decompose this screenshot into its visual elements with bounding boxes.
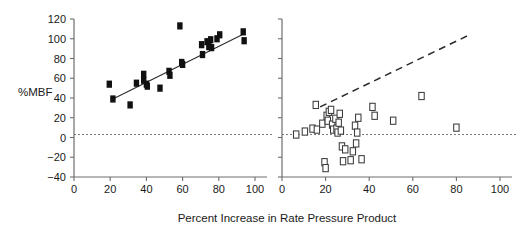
x-tick-label-right-60: 60 xyxy=(407,183,419,195)
data-point-right-11 xyxy=(328,106,333,113)
data-point-left-7 xyxy=(145,83,150,90)
data-point-right-24 xyxy=(350,148,355,155)
y-tick-label-left-40: 40 xyxy=(54,92,66,104)
data-point-left-2 xyxy=(127,101,132,108)
trend-line-left xyxy=(113,34,244,99)
y-tick-label-left-20: 20 xyxy=(54,112,66,124)
x-tick-label-right-100: 100 xyxy=(491,183,509,195)
data-point-right-27 xyxy=(355,129,360,136)
x-tick-label-right-20: 20 xyxy=(319,183,331,195)
data-point-left-3 xyxy=(134,80,139,87)
x-tick-label-left-0: 0 xyxy=(71,183,77,195)
data-point-right-34 xyxy=(454,124,459,131)
data-point-left-19 xyxy=(209,44,214,51)
x-tick-label-left-80: 80 xyxy=(213,183,225,195)
data-point-left-0 xyxy=(107,81,112,88)
y-tick-label-left--20: −20 xyxy=(47,151,66,163)
data-point-left-10 xyxy=(167,72,172,79)
data-point-left-22 xyxy=(241,28,246,35)
data-point-left-23 xyxy=(241,37,246,44)
data-point-right-18 xyxy=(337,110,342,117)
scatter-plot-figure: 020406080100−40−200204060801001200204060… xyxy=(0,0,527,230)
data-point-right-29 xyxy=(359,156,364,163)
x-tick-label-left-60: 60 xyxy=(176,183,188,195)
data-point-right-25 xyxy=(352,122,357,129)
data-point-left-15 xyxy=(200,51,205,58)
data-point-right-1 xyxy=(302,128,307,135)
y-tick-label-left--40: −40 xyxy=(47,171,66,183)
x-tick-label-right-0: 0 xyxy=(279,183,285,195)
data-point-right-33 xyxy=(419,92,424,99)
data-point-left-13 xyxy=(180,61,185,68)
data-point-right-21 xyxy=(340,158,345,165)
panel-right: 020406080100 xyxy=(278,19,518,195)
data-point-right-22 xyxy=(343,146,348,153)
data-point-right-17 xyxy=(336,119,341,126)
x-tick-label-left-100: 100 xyxy=(246,183,264,195)
data-point-right-28 xyxy=(356,114,361,121)
data-point-right-3 xyxy=(313,101,318,108)
data-point-right-26 xyxy=(353,140,358,147)
x-tick-label-right-40: 40 xyxy=(363,183,375,195)
panel-left: 020406080100−40−20020406080100120 xyxy=(47,13,273,195)
y-tick-label-left-60: 60 xyxy=(54,72,66,84)
x-tick-label-left-20: 20 xyxy=(104,183,116,195)
x-tick-label-left-40: 40 xyxy=(140,183,152,195)
data-point-right-30 xyxy=(370,103,375,110)
y-axis-title: %MBF xyxy=(18,86,53,98)
figure-container: 020406080100−40−200204060801001200204060… xyxy=(0,0,527,230)
data-point-right-4 xyxy=(314,126,319,133)
trend-line-right xyxy=(320,35,469,107)
data-point-left-18 xyxy=(208,36,213,43)
y-tick-label-left-80: 80 xyxy=(54,53,66,65)
data-point-right-23 xyxy=(348,157,353,164)
data-point-left-8 xyxy=(157,85,162,92)
data-point-right-31 xyxy=(372,112,377,119)
data-point-right-5 xyxy=(320,120,325,127)
y-tick-label-left-120: 120 xyxy=(48,13,66,25)
data-point-left-21 xyxy=(217,31,222,38)
data-point-right-19 xyxy=(338,127,343,134)
data-point-right-7 xyxy=(323,165,328,172)
x-axis-title: Percent Increase in Rate Pressure Produc… xyxy=(178,212,397,224)
data-point-left-14 xyxy=(199,41,204,48)
data-point-left-1 xyxy=(110,95,115,102)
data-point-right-32 xyxy=(390,117,395,124)
y-tick-label-left-0: 0 xyxy=(60,132,66,144)
data-point-left-11 xyxy=(177,22,182,29)
data-point-right-0 xyxy=(293,131,298,138)
x-tick-label-right-80: 80 xyxy=(450,183,462,195)
y-tick-label-left-100: 100 xyxy=(48,33,66,45)
